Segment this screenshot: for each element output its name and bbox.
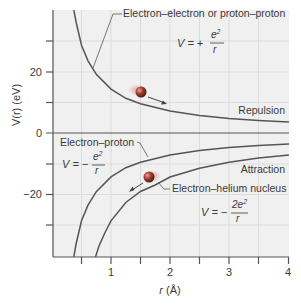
x-tick-2: 2	[167, 266, 173, 278]
y-axis-title: V(r) (eV)	[10, 84, 22, 126]
potential-energy-chart: 20 0 −20 1 2 3 4 r (Å) V(r) (eV) Electro…	[0, 0, 301, 306]
y-tick-0: 0	[36, 127, 42, 139]
ee-label: Electron–electron or proton–proton	[123, 7, 285, 19]
y-tick-m20: −20	[23, 188, 42, 200]
x-tick-3: 3	[226, 266, 232, 278]
repulsion-label: Repulsion	[238, 104, 285, 116]
x-axis-title: r (Å)	[159, 284, 180, 296]
attraction-label: Attraction	[241, 163, 286, 175]
x-tick-4: 4	[285, 266, 291, 278]
svg-text:V = +: V = +	[177, 37, 204, 49]
particle-icon	[144, 172, 155, 183]
y-tick-20: 20	[30, 66, 42, 78]
ehe-label: Electron–helium nucleus	[172, 182, 286, 194]
svg-text:V = −: V = −	[201, 206, 228, 218]
particle-icon	[136, 87, 147, 98]
x-tick-1: 1	[108, 266, 114, 278]
ep-label: Electron–proton	[60, 136, 134, 148]
svg-text:V = −: V = −	[62, 158, 89, 170]
